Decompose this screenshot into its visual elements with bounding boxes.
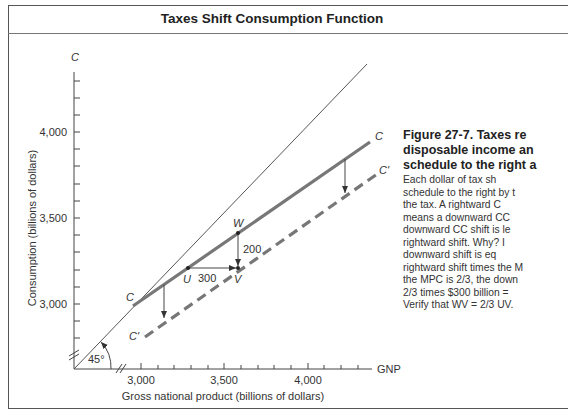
- point-v: [236, 266, 240, 270]
- x-axis-end-label: GNP: [377, 363, 401, 375]
- consumption-line-c-prime: [145, 172, 380, 337]
- caption-line: rightward shift. Why? I: [403, 237, 572, 250]
- point-w: [236, 231, 240, 235]
- caption-line: downward shift is eq: [403, 249, 572, 262]
- x-axis: [74, 363, 372, 373]
- caption-line: rightward shift times the M: [403, 262, 572, 275]
- 45-degree-line: [74, 64, 367, 369]
- angle-label: 45°: [88, 353, 105, 365]
- figure-caption: Figure 27-7. Taxes re disposable income …: [403, 128, 572, 312]
- y-tick-label: 4,000: [39, 126, 67, 138]
- caption-heading-line: disposable income an: [403, 143, 572, 158]
- caption-heading-line: schedule to the right a: [403, 158, 572, 173]
- consumption-line-c: [133, 142, 370, 306]
- label-c-right: C: [375, 130, 383, 142]
- label-v: V: [234, 273, 243, 285]
- caption-line: means a downward CC: [403, 212, 572, 225]
- point-u: [186, 266, 190, 270]
- caption-line: Each dollar of tax sh: [403, 174, 572, 187]
- annotation-200: 200: [243, 243, 261, 255]
- y-tick-label: 3,500: [39, 212, 67, 224]
- caption-line: the tax. A rightward C: [403, 199, 572, 212]
- y-axis-title: Consumption (billions of dollars): [26, 150, 38, 307]
- caption-body: Each dollar of tax sh schedule to the ri…: [403, 174, 572, 312]
- caption-heading: Figure 27-7. Taxes re disposable income …: [403, 128, 572, 173]
- label-c-left: C: [126, 291, 134, 303]
- x-axis-title: Gross national product (billions of doll…: [122, 390, 324, 402]
- caption-heading-line: Figure 27-7. Taxes re: [403, 128, 572, 143]
- y-tick-label: 3,000: [39, 298, 67, 310]
- caption-line: Verify that WV = 2/3 UV.: [403, 299, 572, 312]
- caption-line: downward CC shift is le: [403, 224, 572, 237]
- caption-line: schedule to the right by t: [403, 187, 572, 200]
- label-u: U: [183, 273, 191, 285]
- annotation-300: 300: [198, 272, 216, 284]
- x-tick-label: 3,500: [210, 374, 238, 386]
- caption-line: the MPC is 2/3, the down: [403, 274, 572, 287]
- label-c-prime-right: C': [379, 164, 390, 176]
- caption-line: 2/3 times $300 billion =: [403, 287, 572, 300]
- y-axis-top-label: C: [71, 51, 79, 63]
- y-axis: [69, 72, 80, 369]
- label-c-prime-left: C': [129, 330, 140, 342]
- label-w: W: [233, 217, 245, 229]
- x-tick-label: 3,000: [127, 374, 155, 386]
- x-tick-label: 4,000: [294, 374, 322, 386]
